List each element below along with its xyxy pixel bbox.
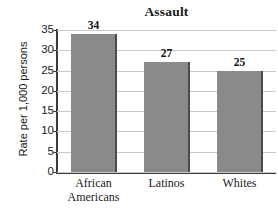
y-axis-tick-label: 5 xyxy=(32,146,54,157)
x-axis-category-label: AfricanAmericans xyxy=(57,176,130,204)
chart-title: Assault xyxy=(57,4,276,20)
y-axis-tick-label: 25 xyxy=(32,65,54,76)
y-axis-tick-label: 20 xyxy=(32,85,54,96)
y-axis-tick-label: 15 xyxy=(32,105,54,116)
y-axis-title: Rate per 1,000 persons xyxy=(17,24,29,174)
y-axis-tick-mark xyxy=(53,172,57,173)
y-axis-tick-mark xyxy=(53,30,57,31)
plot-area: 342725 xyxy=(57,30,276,172)
y-axis-tick-label: 10 xyxy=(32,125,54,136)
x-axis-category-label: Latinos xyxy=(130,176,203,190)
y-axis-tick-mark xyxy=(53,131,57,132)
x-axis-category-label-line: Whites xyxy=(203,176,276,190)
x-axis-category-label-line: Americans xyxy=(57,190,130,204)
bar-value-label: 34 xyxy=(71,19,117,31)
x-axis-category-label: Whites xyxy=(203,176,276,190)
y-axis-tick-mark xyxy=(53,71,57,72)
x-axis-category-label-line: Latinos xyxy=(130,176,203,190)
bar-group[interactable]: 27 xyxy=(144,30,190,172)
x-axis-category-label-line: African xyxy=(57,176,130,190)
bar[interactable] xyxy=(71,34,117,172)
bar-group[interactable]: 34 xyxy=(71,30,117,172)
y-axis-tick-mark xyxy=(53,50,57,51)
y-axis-tick-label: 30 xyxy=(32,44,54,55)
bar-value-label: 25 xyxy=(217,56,263,68)
y-axis-tick-mark xyxy=(53,91,57,92)
bar-group[interactable]: 25 xyxy=(217,30,263,172)
bar[interactable] xyxy=(217,71,263,172)
y-axis-tick-label: 35 xyxy=(32,24,54,35)
y-axis-tick-mark xyxy=(53,152,57,153)
bar[interactable] xyxy=(144,62,190,172)
y-axis-tick-mark xyxy=(53,111,57,112)
assault-bar-chart: Assault Rate per 1,000 persons 353025201… xyxy=(0,0,278,209)
bar-value-label: 27 xyxy=(144,47,190,59)
gridline xyxy=(57,172,276,173)
y-axis-tick-label: 0 xyxy=(32,166,54,177)
y-axis-tick-labels: 35302520151050 xyxy=(30,0,54,209)
